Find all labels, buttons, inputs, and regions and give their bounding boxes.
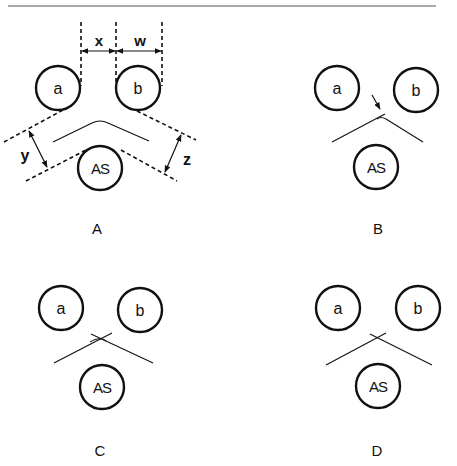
tangent-line-upper-right — [137, 111, 196, 140]
circle-a-label: a — [57, 300, 66, 317]
dimension-w-label: w — [133, 32, 146, 49]
tangent-line-lower-right — [121, 150, 177, 181]
panel-b-label: B — [373, 220, 383, 237]
panel-a-label: A — [92, 220, 102, 237]
circle-b-label: b — [414, 300, 423, 317]
trajectory-left — [54, 333, 112, 363]
circle-b-label: b — [136, 302, 145, 319]
dimension-z-label: z — [183, 151, 191, 168]
circle-a-label: a — [54, 80, 63, 97]
circle-a-label: a — [333, 80, 342, 97]
dimension-z-arrow — [165, 135, 181, 172]
curved-trajectory — [53, 121, 149, 142]
indicator-arrow — [372, 95, 380, 109]
dimension-x-label: x — [95, 32, 104, 49]
panel-a: x w a b AS y z A — [4, 22, 196, 237]
panel-c: a b AS C — [39, 286, 162, 459]
tangent-line-upper-left — [4, 110, 63, 142]
circle-b-label: b — [134, 80, 143, 97]
circle-a-label: a — [334, 300, 343, 317]
trajectory-right — [370, 334, 432, 365]
circle-as-label: AS — [369, 378, 388, 395]
trajectory-right — [377, 118, 423, 143]
trajectory-left — [332, 114, 385, 142]
panel-c-label: C — [95, 442, 106, 459]
circle-as-label: AS — [367, 159, 386, 176]
panel-b: a b AS B — [315, 66, 438, 237]
circle-as-label: AS — [93, 379, 112, 396]
panel-d-label: D — [372, 442, 383, 459]
figure-canvas: x w a b AS y z A a b AS B — [0, 0, 457, 466]
dimension-y-label: y — [21, 147, 30, 164]
dimension-y-arrow — [29, 131, 47, 167]
circle-b-label: b — [412, 82, 421, 99]
circle-as-label: AS — [91, 160, 110, 177]
panel-d: a b AS D — [316, 286, 440, 459]
